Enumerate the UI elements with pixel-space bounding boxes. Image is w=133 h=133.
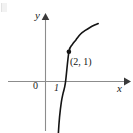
y-axis-label: y <box>35 10 40 21</box>
x-axis-label: x <box>117 83 122 94</box>
y-axis-arrowhead <box>42 13 50 20</box>
x-axis-arrowhead <box>124 78 131 86</box>
graph-canvas <box>0 0 133 133</box>
point-coordinate-label: (2, 1) <box>70 57 92 67</box>
logarithmic-curve <box>57 24 98 133</box>
figure-container: y x 0 1 (2, 1) <box>0 0 133 133</box>
x-tick-label-1: 1 <box>54 83 59 93</box>
origin-tick-label: 0 <box>33 81 38 91</box>
data-point-marker <box>67 50 72 55</box>
